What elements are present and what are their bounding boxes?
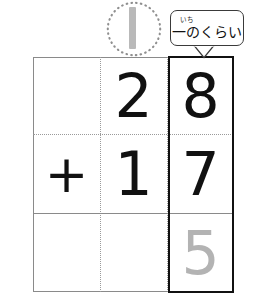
ones-place-callout: いち 一のくらい (170, 10, 244, 46)
ones-cell-row1-value: 8 (181, 66, 219, 126)
calculation-grid: 2 8 + 1 7 5 (33, 57, 233, 292)
sign-cell-row3[interactable] (33, 213, 100, 292)
callout-label: 一のくらい (172, 24, 241, 41)
plus-sign: + (45, 148, 89, 200)
ones-cell-row1[interactable]: 8 (167, 57, 234, 134)
worksheet-canvas: いち 一のくらい 2 8 + 1 7 (0, 0, 257, 305)
ones-cell-row2[interactable]: 7 (167, 134, 234, 213)
ones-cell-row3[interactable]: 5 (167, 213, 234, 292)
tens-cell-row3[interactable] (100, 213, 167, 292)
ones-cell-row2-value: 7 (181, 144, 219, 204)
tens-cell-row2[interactable]: 1 (100, 134, 167, 213)
callout-pointer-icon (193, 45, 215, 59)
tens-cell-row2-value: 1 (114, 144, 152, 204)
ones-cell-row3-value: 5 (181, 223, 219, 283)
tens-cell-row1-value: 2 (114, 66, 152, 126)
tens-cell-row1[interactable]: 2 (100, 57, 167, 134)
carry-digit-one (129, 7, 136, 49)
callout-furigana: いち (180, 16, 195, 24)
sign-cell-row1[interactable] (33, 57, 100, 134)
sign-cell-row2[interactable]: + (33, 134, 100, 213)
